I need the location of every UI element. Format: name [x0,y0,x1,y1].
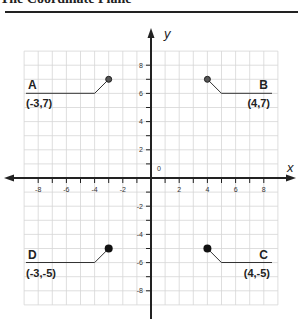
point-marker-icon [106,76,112,82]
x-tick-label: -2 [120,186,126,193]
y-axis-arrow-up-icon [148,28,155,38]
point-coordinates: (-3,-5) [26,267,56,279]
y-tick-label: 6 [139,90,143,97]
point-marker-icon [105,245,113,253]
point-name: C [259,248,268,262]
point-a: A(-3,7) [26,76,112,109]
x-axis-arrow-left-icon [4,175,14,182]
y-tick-label: -2 [137,203,143,210]
y-tick-label: 4 [139,118,143,125]
origin-label: 0 [157,165,161,172]
point-d: D(-3,-5) [26,245,113,279]
point-c: C(4,-5) [203,245,272,279]
point-coordinates: (4,7) [247,97,270,109]
y-tick-label: -6 [137,259,143,266]
y-tick-label: 2 [139,146,143,153]
x-tick-label: 2 [177,186,181,193]
x-tick-label: -4 [91,186,97,193]
point-marker-icon [204,76,210,82]
point-coordinates: (-3,7) [26,97,53,109]
y-axis-label: y [163,26,172,41]
x-tick-label: 4 [205,186,209,193]
x-axis-label: x [286,160,294,175]
point-name: A [28,78,37,92]
y-tick-label: 8 [139,62,143,69]
x-tick-label: -6 [63,186,69,193]
point-coordinates: (4,-5) [244,267,271,279]
point-name: B [259,78,268,92]
x-tick-label: 6 [234,186,238,193]
point-marker-icon [203,245,211,253]
coordinate-plane: xy -8-6-4-224688642-2-4-6-80 A(-3,7)B(4,… [0,0,298,319]
y-tick-label: -8 [137,287,143,294]
x-tick-label: 8 [262,186,266,193]
point-b: B(4,7) [204,76,272,109]
point-name: D [28,248,37,262]
x-tick-label: -8 [35,186,41,193]
x-axis-arrow-right-icon [286,175,296,182]
y-tick-label: -4 [137,231,143,238]
